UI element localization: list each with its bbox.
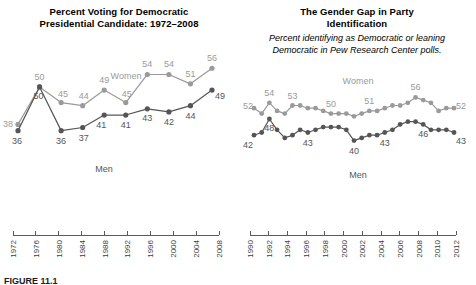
data-point-label: 49 [99,75,109,85]
x-axis-tick-label: 1990 [246,239,255,257]
data-point [15,128,20,133]
data-point [145,106,150,111]
data-point [321,125,326,130]
data-point [413,95,418,100]
data-point [429,100,434,105]
data-point-label: 52 [456,101,466,111]
data-point-label: 49 [215,91,225,101]
x-axis-tick-label: 1972 [9,239,18,257]
data-point [313,106,318,111]
data-point [452,130,457,135]
data-point [290,103,295,108]
data-point [367,109,372,114]
data-point-label: 51 [185,69,195,79]
data-point-label: 56 [207,53,217,63]
chart-plot-right: 5254535051565242484340434643WomenMen1990… [238,0,476,283]
x-axis-tick-label: 2004 [192,239,201,257]
data-point [390,103,395,108]
data-point [344,127,349,132]
data-point [390,127,395,132]
x-axis-tick-label: 1996 [146,239,155,257]
data-point-label: 36 [12,136,22,146]
data-point [123,100,128,105]
data-point-label: 50 [326,99,336,109]
data-point [188,81,193,86]
data-point [444,127,449,132]
data-point-label: 51 [364,96,374,106]
data-point-label: 54 [164,59,174,69]
x-axis-tick-label: 1992 [123,239,132,257]
data-point [80,125,85,130]
data-point [259,111,264,116]
data-point [282,111,287,116]
data-point [421,122,426,127]
series-label-women: Women [343,76,374,86]
x-axis-tick-label: 1988 [101,239,110,257]
data-point [398,103,403,108]
data-point-label: 42 [243,140,253,150]
data-point [282,136,287,141]
data-point [375,109,380,114]
data-point [275,127,280,132]
data-point [80,103,85,108]
data-point [267,117,272,122]
data-point [298,127,303,132]
data-point [359,111,364,116]
data-point-label: 53 [287,91,297,101]
data-point [413,119,418,124]
data-point-label: 38 [3,119,13,129]
data-point-label: 56 [411,82,421,92]
data-point-label: 52 [243,101,253,111]
data-point [59,100,64,105]
data-point-label: 48 [264,123,274,133]
x-axis-tick-label: 1976 [32,239,41,257]
x-axis-tick-label: 2002 [358,239,367,257]
data-point [344,111,349,116]
data-point [145,72,150,77]
x-axis-tick-label: 1984 [78,239,87,257]
x-axis-tick-label: 1998 [321,239,330,257]
data-point-label: 42 [164,117,174,127]
data-point [382,130,387,135]
data-point [313,127,318,132]
data-point-label: 46 [418,129,428,139]
data-point-label: 50 [34,91,44,101]
series-label-men: Men [349,170,367,180]
x-axis-tick-label: 1980 [55,239,64,257]
data-point [166,109,171,114]
x-axis-tick-label: 1994 [283,239,292,257]
data-point-label: 43 [380,138,390,148]
data-point [305,130,310,135]
data-point [259,130,264,135]
data-point [398,122,403,127]
data-point [444,106,449,111]
data-point [436,127,441,132]
data-point [367,133,372,138]
data-point [275,109,280,114]
data-point [37,84,42,89]
data-point-label: 54 [142,59,152,69]
data-point-label: 44 [185,111,195,121]
data-point [102,87,107,92]
data-point [290,133,295,138]
data-point-label: 45 [122,89,132,99]
data-point [321,109,326,114]
data-point [352,114,357,119]
x-axis-tick-label: 2012 [452,239,461,257]
data-point-label: 43 [303,138,313,148]
data-point [59,128,64,133]
series-label-women: Women [111,71,142,81]
data-point [336,111,341,116]
data-point [298,103,303,108]
data-point-label: 45 [58,89,68,99]
data-point [405,119,410,124]
x-axis-tick-label: 2000 [169,239,178,257]
x-axis-tick-label: 2006 [396,239,405,257]
x-axis-tick-label: 2008 [415,239,424,257]
chart-plot-left: 3850454449455454515636503637414143424449… [0,0,238,283]
data-point [329,125,334,130]
data-point [352,138,357,143]
data-point [305,106,310,111]
data-point [329,111,334,116]
